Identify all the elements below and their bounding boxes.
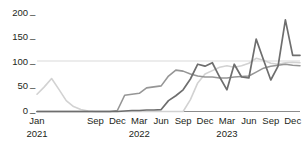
series-line-series-dark [37, 20, 300, 112]
x-axis-year-label: 2023 [211, 128, 243, 139]
series-line-series-medium [37, 64, 300, 111]
y-axis-tick-label: 100 [0, 57, 28, 67]
y-axis-tick-mark: _ [30, 104, 35, 114]
y-axis-tick-mark: _ [30, 79, 35, 89]
data-series-group [37, 20, 300, 112]
series-line-series-light [37, 58, 300, 111]
y-axis-tick-mark: _ [30, 6, 35, 16]
x-axis-year-label: 2022 [123, 128, 155, 139]
y-axis-tick-label: 150 [0, 32, 28, 42]
y-axis-tick-mark: _ [30, 30, 35, 40]
y-axis-tick-label: 200 [0, 8, 28, 18]
line-chart: 0_50_100_150_200_ Jan2021SepDecMar2022Ju… [0, 0, 303, 144]
y-axis-tick-label: 50 [0, 81, 28, 91]
x-axis-tick-label: Jan [21, 115, 53, 126]
y-axis-tick-mark: _ [30, 55, 35, 65]
x-axis-tick-label: Dec [277, 115, 303, 126]
x-axis-year-label: 2021 [21, 128, 53, 139]
